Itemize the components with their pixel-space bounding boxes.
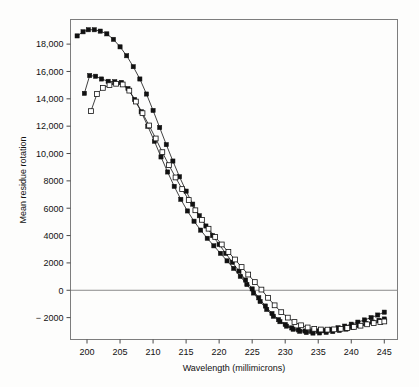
data-point-marker [292,320,297,325]
data-point-marker [193,208,198,213]
data-point-marker [94,74,98,78]
data-point-marker [376,313,380,317]
data-point-marker [159,155,163,159]
y-axis-tick-labels: − 20000200040006000800010,00012,00014,00… [36,39,64,323]
data-point-marker [251,291,255,295]
data-point-marker [75,34,79,38]
data-point-marker [325,327,330,332]
data-point-marker [345,326,350,331]
y-axis-ticks [67,44,71,318]
x-tick-label: 205 [113,347,128,357]
data-point-marker [238,274,242,278]
data-point-marker [245,282,249,286]
data-point-marker [111,37,115,41]
data-point-marker [151,108,155,112]
data-point-marker [219,242,224,247]
data-point-marker [284,324,288,328]
data-point-marker [158,125,162,129]
data-point-marker [125,54,129,58]
x-tick-label: 215 [179,347,194,357]
data-point-marker [199,228,203,232]
y-tick-label: − 2000 [36,313,64,323]
data-point-marker [86,28,90,32]
data-point-marker [358,323,363,328]
data-point-marker [81,30,85,34]
data-point-marker [226,250,231,255]
data-point-marker [352,325,357,330]
data-point-marker [138,77,142,81]
data-point-marker [98,29,102,33]
data-point-marker [278,320,282,324]
data-point-marker [164,143,168,147]
data-point-marker [252,280,257,285]
x-tick-label: 220 [212,347,227,357]
y-tick-label: 4000 [43,231,63,241]
plot-frame [71,20,398,340]
data-point-marker [127,88,132,93]
data-point-marker [166,170,170,174]
data-point-marker [212,244,216,248]
series-curve-b-mid-peak [82,73,386,335]
data-point-marker [105,32,109,36]
data-point-marker [89,109,94,114]
data-point-marker [338,326,343,331]
x-tick-label: 200 [79,347,94,357]
data-point-marker [259,287,264,292]
data-point-marker [382,310,386,314]
data-point-marker [160,150,165,155]
y-tick-label: 6000 [43,204,63,214]
y-tick-label: 14,000 [36,94,64,104]
data-point-marker [365,322,370,327]
data-series-layer [75,28,387,336]
data-point-marker [285,315,290,320]
x-tick-label: 240 [344,347,359,357]
data-point-marker [205,236,209,240]
data-point-marker [92,28,96,32]
data-point-marker [279,310,284,315]
data-point-marker [114,81,119,86]
x-tick-label: 235 [311,347,326,357]
data-point-marker [99,77,103,81]
data-point-marker [185,209,189,213]
data-point-marker [192,219,196,223]
series-curve-a-high-peak [75,28,386,334]
data-point-marker [134,99,139,104]
x-axis-ticks [87,340,384,344]
y-tick-label: 0 [58,286,63,296]
x-tick-label: 245 [377,347,392,357]
y-tick-label: 10,000 [36,149,64,159]
y-axis-title: Mean residue rotation [18,136,28,223]
series-line [77,30,384,332]
data-point-marker [140,111,145,116]
y-tick-label: 2000 [43,258,63,268]
data-point-marker [369,316,373,320]
data-point-marker [362,318,366,322]
data-point-marker [382,319,387,324]
y-tick-label: 8000 [43,176,63,186]
data-point-marker [179,197,183,201]
data-point-marker [82,91,86,95]
series-line [91,84,384,330]
chart-canvas: 200205210215220225230235240245 − 2000020… [0,0,419,387]
y-tick-label: 18,000 [36,39,64,49]
data-point-marker [100,85,105,90]
series-line [84,76,384,334]
data-point-marker [95,92,100,97]
data-point-marker [271,314,275,318]
data-point-marker [272,303,277,308]
x-axis-title: Wavelength (millimicrons) [183,363,286,373]
data-point-marker [232,266,236,270]
data-point-marker [332,327,337,332]
data-point-marker [213,235,218,240]
data-point-marker [291,327,295,331]
data-point-marker [258,299,262,303]
data-point-marker [167,163,172,168]
ord-chart-figure: 200205210215220225230235240245 − 2000020… [0,0,419,387]
data-point-marker [200,217,205,222]
data-point-marker [233,257,238,262]
data-point-marker [131,65,135,69]
data-point-marker [218,251,222,255]
data-point-marker [318,327,323,332]
data-point-marker [298,329,302,333]
data-point-marker [206,226,211,231]
